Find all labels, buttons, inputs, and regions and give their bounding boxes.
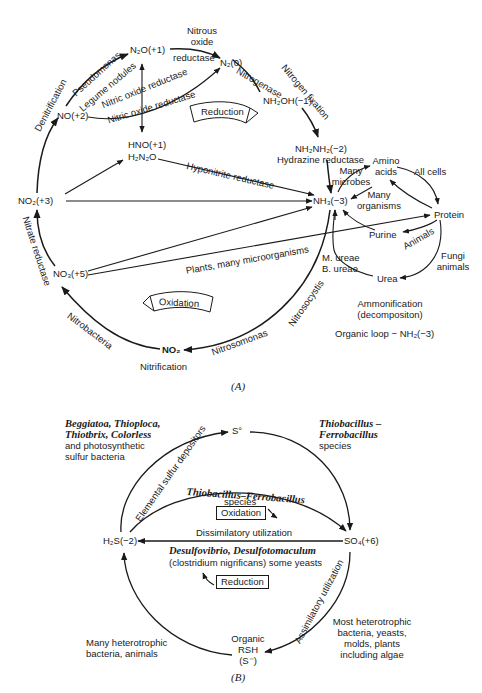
node-n2o: N₂O(+1) <box>130 44 165 55</box>
label-nitrous-oxide-reductase: Nitrous oxide <box>180 25 224 47</box>
label-all-cells: All cells <box>414 166 446 177</box>
node-so4: SO₄(+6) <box>344 535 379 546</box>
label-organic-loop: Organic loop − NH₂(−3) <box>335 328 434 339</box>
label-ammonification: Ammonification (decompositon) <box>350 298 430 320</box>
label-dissimilatory: Dissimilatory utilization <box>196 527 292 538</box>
node-hno: HNO(+1) <box>128 139 166 150</box>
label-nitrification: Nitrification <box>140 361 187 372</box>
node-no3: NO₃(+5) <box>53 268 88 279</box>
label-hydrazine-reductase: Hydrazine reductase <box>277 154 364 165</box>
node-amino-acids: Amino acids <box>368 155 404 177</box>
label-nitrous-reductase: reductase <box>173 52 215 63</box>
node-no2-bottom: NO₂ <box>162 344 180 355</box>
node-purine: Purine <box>369 229 396 240</box>
node-urea: Urea <box>377 273 398 284</box>
label-oxidation: Oxidation <box>159 296 200 309</box>
label-many-heterotrophic: Many heterotrophic bacteria, animals <box>86 637 167 659</box>
figure-canvas: N₂O(+1) N₂(0) NO(+2) HNO(+1) H₂N₂O NH₂OH… <box>0 0 482 693</box>
label-beggiatoa: Beggiatoa, Thioploca, Thiotbrix, Colorle… <box>65 418 160 462</box>
node-h2s: H₂S(−2) <box>103 535 137 546</box>
node-s0: S° <box>232 425 242 436</box>
caption-b: (B) <box>231 672 245 683</box>
node-organic-rsh: Organic RSH (S⁻) <box>228 633 268 666</box>
label-b-ureae: B. ureae <box>322 263 358 274</box>
label-clostridium: (clostridium nigrificans) some yeasts <box>169 557 322 568</box>
node-h2n2o: H₂N₂O <box>128 151 157 162</box>
node-nh2nh2: NH₂NH₂(−2) <box>295 143 347 154</box>
label-oxidation-b: Oxidation <box>216 506 266 520</box>
node-nh3: NH₃(−3) <box>313 195 348 206</box>
label-m-ureae: M. ureae <box>322 252 360 263</box>
node-protein: Protein <box>434 209 464 220</box>
label-thiobacillus-right: Thiobacillus – Ferrobacillus species <box>319 418 381 451</box>
label-desulfovibrio: Desulfovibrio, Desulfotomaculum <box>169 545 316 556</box>
label-reduction: Reduction <box>201 106 244 117</box>
label-reduction-b: Reduction <box>216 575 269 589</box>
label-many-microbes: Many microbes <box>331 165 371 187</box>
node-no2-plus3: NO₂(+3) <box>18 195 53 206</box>
label-most-heterotrophic: Most heterotrophic bacteria, yeasts, mol… <box>330 616 414 660</box>
caption-a: (A) <box>231 381 245 392</box>
label-many-organisms: Many organisms <box>356 189 402 211</box>
label-fungi-animals: Fungi animals <box>435 250 471 272</box>
